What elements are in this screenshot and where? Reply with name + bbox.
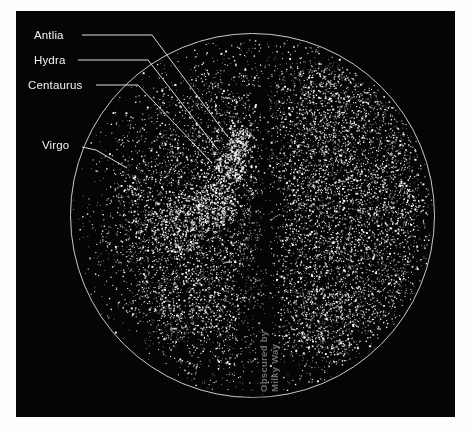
label-centaurus: Centaurus bbox=[28, 79, 82, 91]
galaxy-scatter-canvas bbox=[16, 11, 455, 417]
label-hydra: Hydra bbox=[34, 54, 65, 66]
milky-way-caption-line1: Obscured by bbox=[258, 331, 269, 392]
label-virgo: Virgo bbox=[42, 139, 69, 151]
figure-root: Antlia Hydra Centaurus Virgo Obscured by… bbox=[0, 0, 470, 430]
milky-way-caption-line2: Milky Way bbox=[269, 331, 280, 392]
label-antlia: Antlia bbox=[34, 29, 64, 41]
milky-way-obscured-caption: Obscured by Milky Way bbox=[258, 331, 280, 392]
sky-map-plate: Antlia Hydra Centaurus Virgo Obscured by… bbox=[16, 11, 455, 417]
